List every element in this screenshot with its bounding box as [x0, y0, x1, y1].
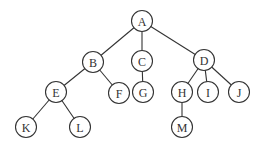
node-label: I	[206, 86, 210, 100]
node-e: E	[46, 82, 67, 103]
node-a: A	[132, 11, 153, 32]
node-label: A	[138, 15, 147, 29]
node-l: L	[70, 117, 91, 138]
node-j: J	[229, 82, 250, 103]
node-g: G	[133, 82, 154, 103]
node-k: K	[16, 117, 37, 138]
node-label: B	[89, 56, 97, 70]
tree-diagram: ABCDEFGHIJKLM	[0, 0, 258, 146]
node-i: I	[198, 82, 219, 103]
node-label: L	[76, 121, 83, 135]
node-d: D	[194, 50, 215, 71]
node-h: H	[172, 82, 193, 103]
node-c: C	[132, 51, 153, 72]
node-label: H	[178, 86, 187, 100]
node-label: C	[138, 55, 146, 69]
node-label: E	[52, 86, 59, 100]
node-label: J	[237, 86, 242, 100]
node-m: M	[172, 117, 193, 138]
node-label: M	[177, 121, 188, 135]
node-label: K	[22, 121, 31, 135]
node-label: F	[116, 87, 123, 101]
node-label: G	[139, 86, 148, 100]
tree-edges	[26, 21, 239, 127]
node-f: F	[109, 83, 130, 104]
node-b: B	[83, 52, 104, 73]
node-label: D	[200, 54, 209, 68]
